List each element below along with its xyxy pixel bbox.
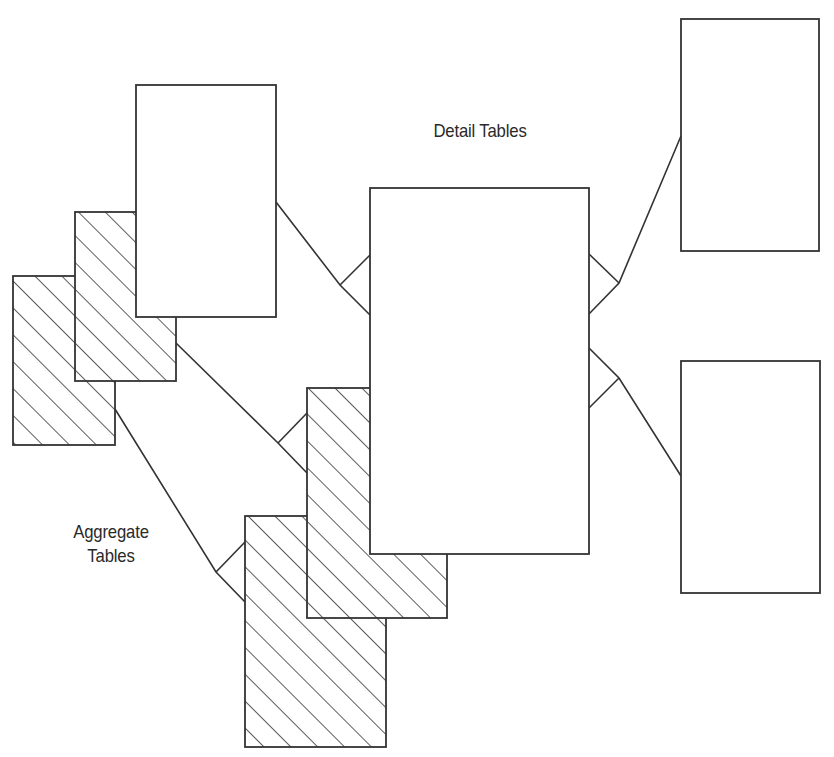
crows-foot-icon — [589, 254, 619, 283]
data-model-diagram — [0, 0, 834, 757]
table-detail-center — [370, 188, 589, 554]
crows-foot-icon — [278, 413, 307, 443]
relationship-line-detail-right-top-to-detail-center — [589, 136, 681, 314]
relationship-line-detail-right-bottom-to-detail-center — [589, 348, 681, 476]
aggregate-label-line1: Aggregate — [49, 520, 172, 544]
table-detail-1 — [136, 85, 276, 317]
crows-foot-icon — [589, 378, 619, 408]
detail-tables-text: Detail Tables — [433, 120, 526, 141]
detail-tables-label: Detail Tables — [414, 119, 546, 143]
table-detail-right-top — [681, 19, 819, 251]
aggregate-label-line2: Tables — [49, 544, 172, 568]
table-detail-right-bottom — [681, 361, 820, 593]
crows-foot-icon — [216, 542, 245, 572]
relationship-line-agg-1-to-agg-3 — [115, 409, 245, 602]
relationship-line-agg-2-to-agg-4 — [176, 343, 307, 473]
crows-foot-icon — [340, 255, 370, 285]
relationship-line-detail-1-to-detail-center — [276, 202, 370, 315]
aggregate-tables-label: Aggregate Tables — [49, 520, 172, 568]
